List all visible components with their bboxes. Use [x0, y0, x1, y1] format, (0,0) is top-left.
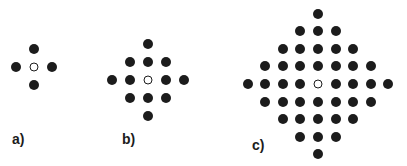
neighbor-dot — [278, 97, 288, 107]
neighbor-dot — [125, 93, 135, 103]
neighbor-dot — [295, 132, 305, 142]
neighbor-dot — [295, 26, 305, 36]
neighbor-dot — [313, 97, 323, 107]
neighbor-dot — [125, 57, 135, 67]
neighbor-dot — [348, 114, 358, 124]
neighbor-dot — [295, 61, 305, 71]
neighbor-dot — [331, 26, 341, 36]
neighbor-dot — [313, 149, 323, 159]
neighbor-dot — [331, 114, 341, 124]
neighbor-dot — [331, 44, 341, 54]
neighbor-dot — [295, 44, 305, 54]
neighbor-dot — [313, 114, 323, 124]
neighbor-dot — [29, 80, 39, 90]
neighbor-dot — [348, 61, 358, 71]
neighbor-dot — [313, 61, 323, 71]
neighbor-dot — [278, 114, 288, 124]
neighbor-dot — [313, 132, 323, 142]
neighbor-dot — [331, 61, 341, 71]
neighbor-dot — [331, 132, 341, 142]
center-point-hollow-dot — [314, 80, 323, 89]
neighbor-dot — [313, 26, 323, 36]
neighbor-dot — [161, 57, 171, 67]
neighbor-dot — [278, 79, 288, 89]
neighbor-dot — [366, 79, 376, 89]
neighbor-dot — [278, 61, 288, 71]
neighbor-dot — [29, 44, 39, 54]
neighbor-dot — [179, 75, 189, 85]
diagram-figure: a)b)c) — [0, 0, 407, 166]
neighbor-dot — [295, 97, 305, 107]
neighbor-dot — [143, 93, 153, 103]
neighbor-dot — [161, 75, 171, 85]
neighbor-dot — [366, 97, 376, 107]
neighbor-dot — [107, 75, 117, 85]
center-point-hollow-dot — [144, 76, 153, 85]
neighbor-dot — [348, 79, 358, 89]
panel-label-a: a) — [12, 131, 24, 147]
neighbor-dot — [313, 9, 323, 19]
neighbor-dot — [348, 97, 358, 107]
neighbor-dot — [278, 44, 288, 54]
neighbor-dot — [295, 114, 305, 124]
neighbor-dot — [143, 111, 153, 121]
center-point-hollow-dot — [30, 63, 39, 72]
neighbor-dot — [331, 97, 341, 107]
neighbor-dot — [260, 79, 270, 89]
neighbor-dot — [313, 44, 323, 54]
neighbor-dot — [47, 62, 57, 72]
neighbor-dot — [260, 61, 270, 71]
neighbor-dot — [295, 79, 305, 89]
panel-label-b: b) — [122, 131, 135, 147]
neighbor-dot — [260, 97, 270, 107]
neighbor-dot — [243, 79, 253, 89]
neighbor-dot — [331, 79, 341, 89]
neighbor-dot — [383, 79, 393, 89]
neighbor-dot — [143, 39, 153, 49]
panel-label-c: c) — [252, 137, 264, 153]
neighbor-dot — [348, 44, 358, 54]
neighbor-dot — [161, 93, 171, 103]
neighbor-dot — [366, 61, 376, 71]
neighbor-dot — [11, 62, 21, 72]
neighbor-dot — [143, 57, 153, 67]
neighbor-dot — [125, 75, 135, 85]
